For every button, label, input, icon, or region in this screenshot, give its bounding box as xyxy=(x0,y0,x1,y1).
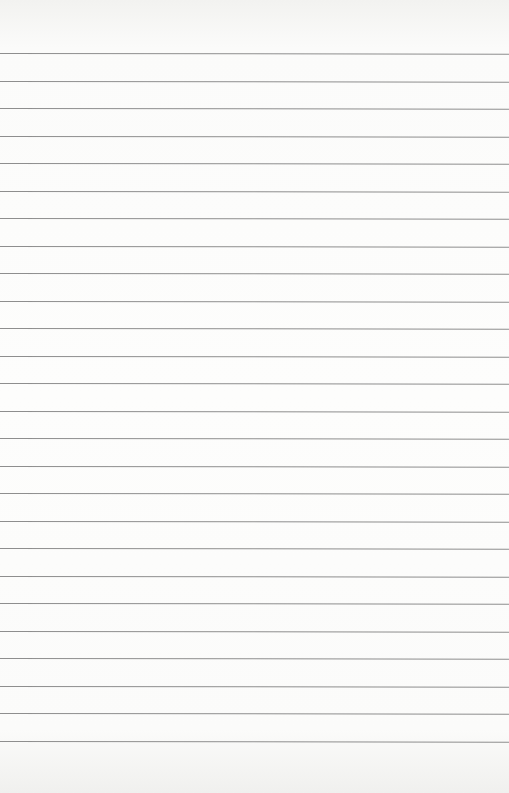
ruled-line xyxy=(0,273,509,275)
ruled-line xyxy=(0,356,509,358)
ruled-line xyxy=(0,136,509,138)
ruled-line xyxy=(0,493,509,495)
ruled-line xyxy=(0,686,509,688)
ruled-line xyxy=(0,576,509,578)
ruled-line xyxy=(0,383,509,385)
ruled-line xyxy=(0,218,509,220)
ruled-line xyxy=(0,521,509,523)
ruled-line xyxy=(0,191,509,193)
ruled-line xyxy=(0,411,509,413)
ruled-line xyxy=(0,631,509,633)
ruled-line xyxy=(0,603,509,605)
ruled-line xyxy=(0,438,509,440)
ruled-line xyxy=(0,328,509,330)
ruled-line xyxy=(0,246,509,248)
ruled-line xyxy=(0,658,509,660)
ruled-line xyxy=(0,741,509,743)
ruled-line xyxy=(0,81,509,83)
ruled-line xyxy=(0,108,509,110)
lined-paper-sheet xyxy=(0,0,509,793)
ruled-line xyxy=(0,163,509,165)
ruled-line xyxy=(0,53,509,55)
ruled-line xyxy=(0,466,509,468)
ruled-line xyxy=(0,713,509,715)
ruled-line xyxy=(0,548,509,550)
ruled-line xyxy=(0,301,509,303)
